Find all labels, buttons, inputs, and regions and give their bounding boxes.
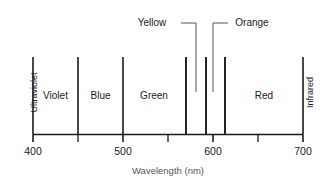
x-tick-label-600: 600 xyxy=(204,146,222,157)
band-label-ultraviolet: Ultraviolet xyxy=(14,60,54,130)
band-label-blue: Blue xyxy=(90,91,110,101)
x-axis-title: Wavelength (nm) xyxy=(132,166,204,176)
x-tick-label-400: 400 xyxy=(24,146,42,157)
band-label-infrared: Infrared xyxy=(290,64,330,126)
band-label-red: Red xyxy=(255,91,273,101)
band-label-green: Green xyxy=(140,91,168,101)
x-tick-label-500: 500 xyxy=(114,146,132,157)
spectrum-diagram: Violet Blue Green Red Ultraviolet Infrar… xyxy=(0,0,333,184)
callout-label-yellow: Yellow xyxy=(138,18,167,28)
x-tick-label-700: 700 xyxy=(294,146,312,157)
callout-label-orange: Orange xyxy=(235,18,268,28)
yellow-leader-line xyxy=(181,23,196,92)
